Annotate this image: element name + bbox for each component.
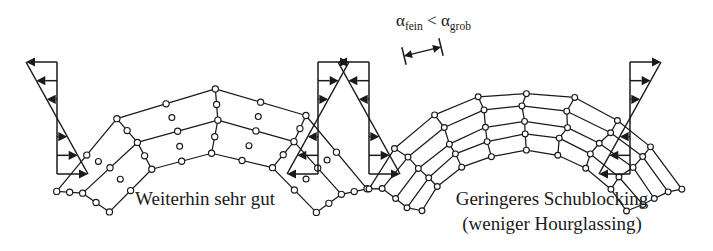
stress-profile-right-inner <box>338 57 400 178</box>
stress-profile-left-outer <box>26 57 88 178</box>
caption-right-line-2: (weniger Hourglassing) <box>462 213 642 235</box>
fem-mesh-comparison-figure: αfein < αgrob Weiterhin sehr gutGeringer… <box>0 0 713 251</box>
caption-left-line-1: Weiterhin sehr gut <box>135 188 276 209</box>
caption-right-line-1: Geringeres Schublocking <box>456 188 649 209</box>
element-width-dimension-arrow <box>402 38 443 64</box>
stress-profile-right-outer <box>599 57 661 178</box>
alpha-comparison-label: αfein < αgrob <box>396 11 471 33</box>
stress-profile-left-inner <box>287 57 349 178</box>
